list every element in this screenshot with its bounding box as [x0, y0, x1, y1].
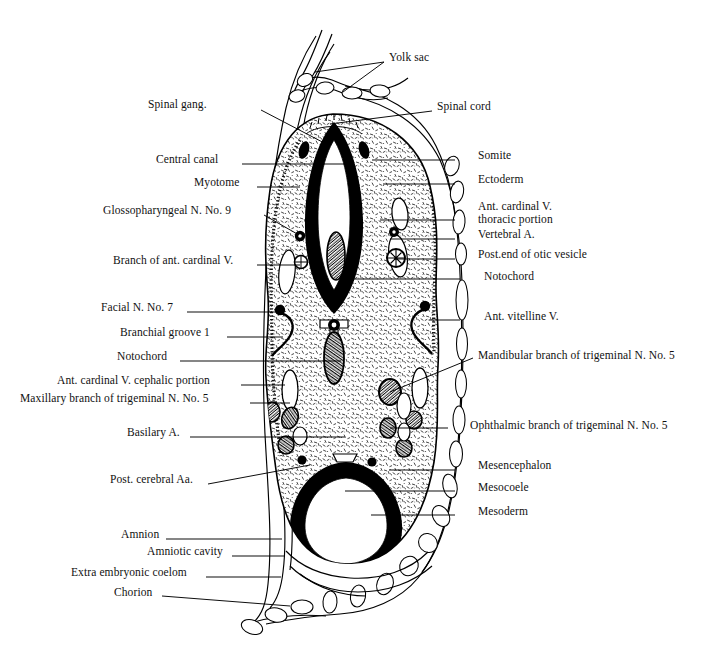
label-ant-card-v-thor: Ant. cardinal V.thoracic portion — [478, 200, 553, 226]
ant-cardinal-vein-right — [412, 368, 428, 408]
label-mandibular-branch: Mandibular branch of trigeminal N. No. 5 — [478, 349, 675, 362]
label-notochord-right: Notochord — [484, 270, 534, 283]
post-cerebral-artery-left — [297, 455, 306, 464]
nerve-bundle-left-lower — [264, 402, 280, 422]
yolk-sac-vesicles — [288, 71, 391, 104]
basilary-artery — [328, 319, 340, 331]
label-mesencephalon: Mesencephalon — [478, 459, 551, 472]
nerve-bundle-left-lowest — [278, 436, 294, 454]
label-amnion: Amnion — [121, 528, 159, 541]
label-yolk-sac: Yolk sac — [389, 51, 429, 64]
label-ant-card-v-ceph: Ant. cardinal V. cephalic portion — [57, 374, 210, 387]
label-vertebral-a: Vertebral A. — [478, 228, 535, 241]
small-vessel-left-a — [295, 256, 308, 270]
label-glossopharyngeal: Glossopharyngeal N. No. 9 — [103, 204, 231, 217]
label-branchial-groove-1: Branchial groove 1 — [120, 326, 210, 339]
label-chorion: Chorion — [114, 586, 152, 599]
mesencephalon-roof-notch — [333, 454, 357, 462]
label-extra-emb-coelom: Extra embryonic coelom — [71, 566, 187, 579]
label-maxillary-branch: Maxillary branch of trigeminal N. No. 5 — [20, 392, 209, 405]
nerve-bundle-right-lowest — [396, 439, 412, 457]
label-spinal-gang: Spinal gang. — [148, 98, 207, 111]
leader-chorion — [162, 596, 290, 606]
otic-vesicle-right — [387, 249, 405, 267]
figure-canvas: Spinal gang.Central canalMyotomeGlossoph… — [0, 0, 715, 669]
label-notochord-left: Notochord — [117, 350, 167, 363]
label-post-cerebral-aa: Post. cerebral Aa. — [110, 473, 193, 486]
label-mesoderm: Mesoderm — [478, 505, 528, 518]
leader-yolk-sac — [315, 62, 384, 72]
label-ophthalmic-branch: Ophthalmic branch of trigeminal N. No. 5 — [470, 419, 668, 432]
notochord-upper — [324, 332, 344, 384]
label-branch-ant-card-v: Branch of ant. cardinal V. — [113, 254, 233, 267]
label-somite: Somite — [478, 149, 511, 162]
label-ant-vitelline-v: Ant. vitelline V. — [484, 310, 559, 323]
glossopharyngeal-nerve — [295, 231, 305, 241]
notochord-lower — [327, 232, 345, 280]
label-facial-n-7: Facial N. No. 7 — [101, 301, 173, 314]
label-basilary-a: Basilary A. — [127, 426, 180, 439]
ant-cardinal-vein-left — [282, 370, 298, 410]
label-myotome: Myotome — [194, 176, 239, 189]
facial-nerve-left — [275, 305, 285, 315]
post-cerebral-artery-right — [367, 457, 376, 466]
label-mesocoele: Mesocoele — [478, 481, 529, 494]
label-spinal-cord: Spinal cord — [437, 100, 491, 113]
label-ectoderm: Ectoderm — [478, 173, 524, 186]
label-post-end-otic: Post.end of otic vesicle — [478, 248, 587, 261]
facial-nerve-right — [420, 301, 430, 311]
label-central-canal: Central canal — [156, 153, 218, 166]
label-amniotic-cavity: Amniotic cavity — [147, 545, 223, 558]
